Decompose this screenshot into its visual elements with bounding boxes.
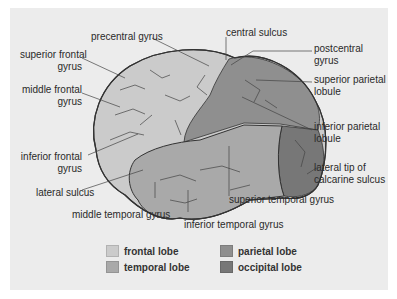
label-postcentral-gyrus: postcentral gyrus [314,43,363,67]
label-middle-temporal-gyrus: middle temporal gyrus [72,209,170,221]
legend-parietal-lobe: parietal lobe [220,245,297,257]
label-superior-parietal-lobule: superior parietal lobule [314,74,386,98]
label-middle-frontal-gyrus: middle frontal gyrus [20,84,82,108]
legend-swatch-frontal [106,245,119,257]
label-superior-temporal-gyrus: superior temporal gyrus [229,194,334,206]
legend-swatch-parietal [220,245,233,257]
legend-swatch-occipital [220,261,233,273]
label-central-sulcus: central sulcus [226,27,287,39]
label-precentral-gyrus: precentral gyrus [91,31,163,43]
label-lateral-tip-calcarine-sulcus: lateral tip of calcarine sulcus [314,162,385,186]
label-lateral-sulcus: lateral sulcus [36,187,94,199]
legend-occipital-lobe: occipital lobe [220,261,302,273]
label-inferior-frontal-gyrus: inferior frontal gyrus [14,151,82,175]
legend-swatch-temporal [106,261,119,273]
label-inferior-parietal-lobule: inferior parietal lobule [314,121,380,145]
label-superior-frontal-gyrus: superior frontal gyrus [20,49,82,73]
legend-temporal-lobe: temporal lobe [106,261,190,273]
legend-frontal-lobe: frontal lobe [106,245,178,257]
label-inferior-temporal-gyrus: inferior temporal gyrus [184,219,283,231]
